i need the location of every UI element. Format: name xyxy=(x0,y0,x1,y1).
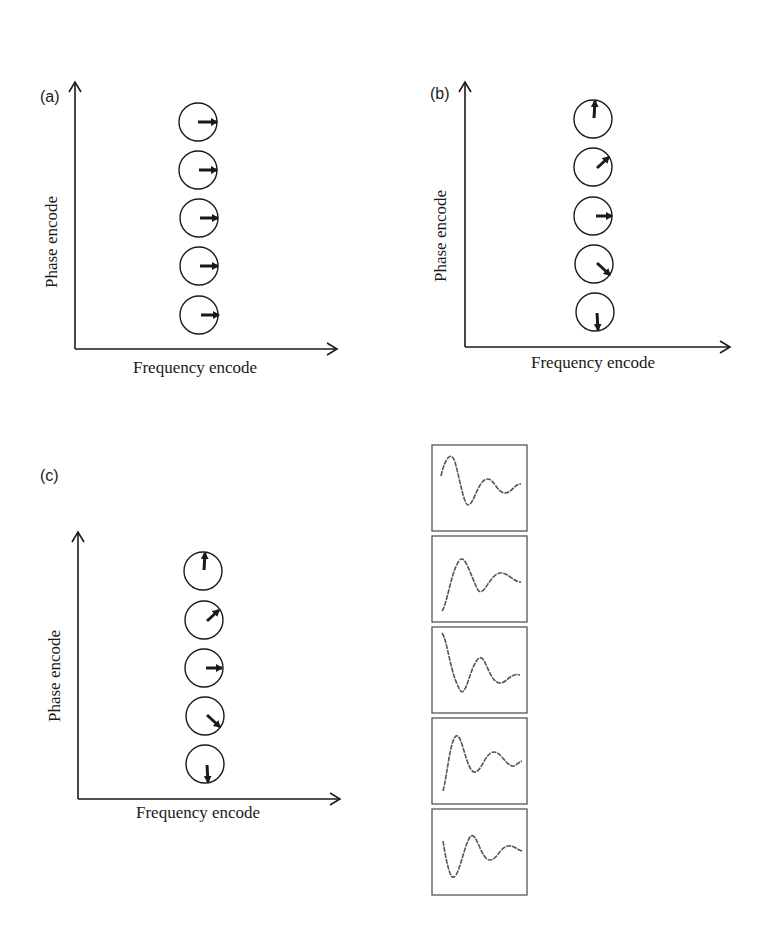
spin-icon xyxy=(180,199,218,237)
panel-c-axes xyxy=(78,532,340,799)
spin-icon xyxy=(576,293,614,331)
spin-icon xyxy=(575,245,613,283)
diagram-canvas xyxy=(0,0,771,939)
signal-boxes xyxy=(432,445,527,895)
spin-icon xyxy=(179,103,217,141)
panel-c-spins xyxy=(184,552,224,783)
spin-icon xyxy=(180,296,219,334)
signal-box-3 xyxy=(432,627,527,713)
spin-icon xyxy=(574,197,612,235)
spin-icon xyxy=(186,745,224,783)
spin-icon xyxy=(184,552,222,590)
signal-box-4 xyxy=(432,718,527,804)
spin-icon xyxy=(186,697,224,735)
panel-a-spins xyxy=(179,103,219,334)
spin-icon xyxy=(574,100,612,138)
signal-box-5 xyxy=(432,809,527,895)
spin-icon xyxy=(185,601,223,639)
spin-icon xyxy=(574,148,612,186)
signal-box-1 xyxy=(432,445,527,531)
spin-icon xyxy=(185,649,223,687)
signal-box-2 xyxy=(432,536,527,622)
spin-icon xyxy=(180,247,218,285)
spin-icon xyxy=(179,151,217,189)
panel-b-spins xyxy=(574,100,614,331)
